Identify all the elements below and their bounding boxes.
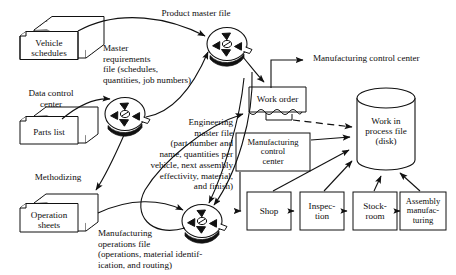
parts-list-line1: Parts list [20,127,78,137]
document-work-order-label: Work order [249,87,306,112]
vehicle-schedules-line2: schedules [20,48,78,58]
arrow-stockroom-to-work-in-process-file [374,176,381,191]
wip-line2: process file [357,126,415,136]
wip-line3: (disk) [357,136,415,146]
work-order-text: Work order [257,94,298,104]
operation-sheets-line1: Operation [20,210,78,220]
shop-line1: Shop [247,206,291,216]
label-manufacturing-operations-file: Manufacturing operations file (operation… [98,228,248,271]
wip-line1: Work in [357,116,415,126]
box-assembly-manufacturing-label: Assembly manufac- turing [400,192,446,230]
label-product-master-file: Product master file [136,8,256,19]
stockroom-line1: Stock- [353,201,397,211]
inspection-line2: tion [300,211,344,221]
arrow-product-master-file-to-manufacturing-control-center-label [271,60,303,88]
arrow-manufacturing-control-center-to-shop [240,172,241,211]
arrow-assembly-manufacturing-to-work-in-process-file [400,173,420,191]
box-stockroom-label: Stock- room [353,192,397,230]
box-manufacturing-control-center-label: Manufacturing control center [236,133,310,171]
label-engineering-master-file: Engineering master file (part number and… [118,117,233,192]
label-methodizing: Methodizing [12,172,104,183]
box-inspection-label: Inspec- tion [300,192,344,230]
arrow-product-master-file-to-work-order [243,57,264,82]
mcc-line3: center [236,157,310,167]
diagram-canvas: Product master file Master requirements … [0,0,456,275]
cylinder-work-in-process-file-label: Work in process file (disk) [357,110,415,152]
card-stack-operation-sheets-label: Operation sheets [20,208,78,232]
card-stack-parts-list-label: Parts list [20,121,78,144]
inspection-line1: Inspec- [300,201,344,211]
arrow-manufacturing-control-center-to-work-in-process-file [311,137,350,140]
stockroom-line2: room [353,211,397,221]
arrow-work-order-to-work-in-process-file [293,120,352,127]
operation-sheets-line2: sheets [20,220,78,230]
assembly-line3: turing [400,216,446,226]
card-stack-vehicle-schedules-label: Vehicle schedules [20,36,78,60]
arrow-inspection-to-work-in-process-file [324,161,352,191]
label-master-requirements-file: Master requirements file (schedules, qua… [103,43,223,86]
label-manufacturing-control-center-output: Manufacturing control center [313,53,456,64]
box-shop-label: Shop [247,192,291,230]
vehicle-schedules-line1: Vehicle [20,38,78,48]
label-data-control-center: Data control center [5,88,97,109]
